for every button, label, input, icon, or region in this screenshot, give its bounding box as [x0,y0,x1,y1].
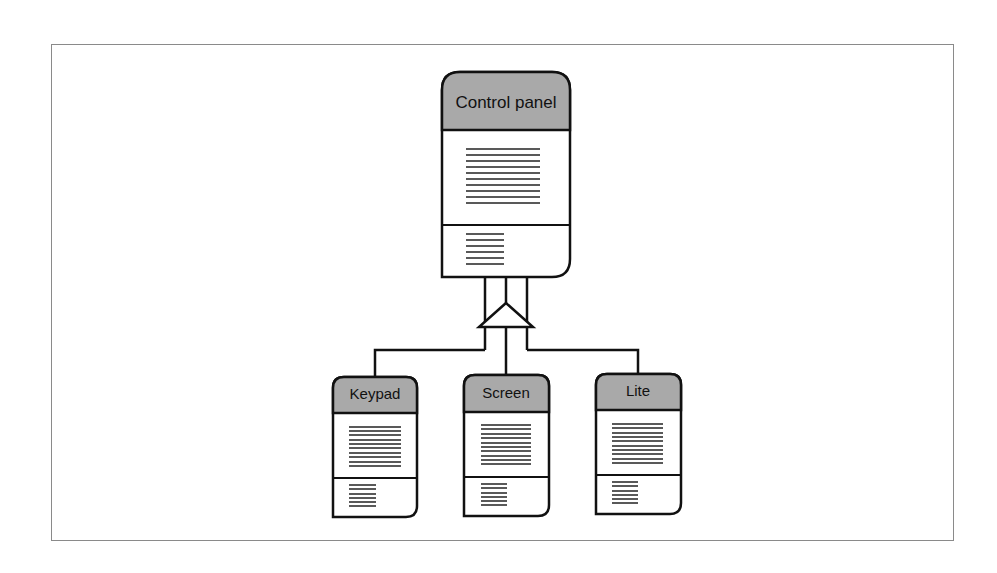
class-name-control-panel: Control panel [455,93,556,112]
class-box-control-panel[interactable]: Control panel [442,72,570,277]
inheritance-triangle-icon [479,303,533,327]
generalization-connector [375,277,638,378]
class-name-keypad: Keypad [350,385,401,402]
class-box-screen[interactable]: Screen [464,375,549,516]
class-box-keypad[interactable]: Keypad [333,377,417,517]
inheritance-diagram: Control panel [0,0,997,573]
class-box-lite[interactable]: Lite [596,374,681,514]
class-name-lite: Lite [626,382,650,399]
class-name-screen: Screen [482,384,530,401]
